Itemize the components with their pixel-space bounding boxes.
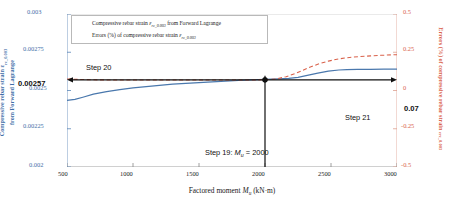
annotation-arrowhead-step-21 xyxy=(391,77,397,82)
x-axis-title-unit: (kN·m) xyxy=(253,186,275,195)
y-axis-left-title-line2: from Forward Lagrange xyxy=(8,60,15,125)
marker-mid-dot xyxy=(264,79,266,81)
y-axis-left-title-line1: Compressive rebar strain ε xyxy=(0,65,5,136)
y-tick-right-0.25: 0.25 xyxy=(403,45,414,52)
left-axis-readout-value: 0.00257 xyxy=(18,79,45,88)
y-tick-left-0.00275: 0.00275 xyxy=(23,45,44,52)
y-tick-right--0.25: -0.25 xyxy=(401,122,414,129)
x-axis-title-text: Factored moment xyxy=(189,186,241,195)
plot-area xyxy=(67,14,397,167)
y-axis-left-title-subscript: rc_0.003 xyxy=(3,49,8,65)
y-tick-right-0.5: 0.5 xyxy=(403,8,411,15)
series-line-compressive-strain xyxy=(67,69,397,100)
y-tick-left-0.003: 0.003 xyxy=(27,8,41,15)
plot-svg xyxy=(67,14,397,167)
y-tick-right-0: 0 xyxy=(403,84,406,91)
right-axis-readout-value: 0.07 xyxy=(404,104,419,113)
y-tick-right--0.5: -0.5 xyxy=(401,161,411,168)
annotation-arrowhead-step-20 xyxy=(67,77,73,82)
y-axis-right-title: Errors (%) of compressive rebar strain ε… xyxy=(433,18,449,168)
x-tick-2000: 2000 xyxy=(252,170,265,177)
y-tick-marks-left xyxy=(67,14,71,167)
y-tick-left-0.002: 0.002 xyxy=(29,161,43,168)
x-tick-1000: 1000 xyxy=(120,170,133,177)
x-axis-title: Factored moment Mu (kN·m) xyxy=(67,186,397,196)
x-tick-2500: 2500 xyxy=(318,170,331,177)
series-line-errors xyxy=(67,55,397,80)
y-axis-right-title-line1: Errors (%) of compressive rebar strain xyxy=(438,27,445,130)
y-axis-left-title: Compressive rebar strain εrc_0.003 from … xyxy=(0,26,14,156)
x-tick-marks xyxy=(67,163,397,167)
x-tick-500: 500 xyxy=(58,170,68,177)
x-tick-3000: 3000 xyxy=(384,170,397,177)
x-tick-1500: 1500 xyxy=(186,170,199,177)
y-tick-marks-right xyxy=(393,14,397,167)
figure-canvas: Compressive rebar strain εrc_0.003 from … xyxy=(0,0,449,204)
y-tick-left-0.00225: 0.00225 xyxy=(23,122,44,129)
y-axis-right-title-subscript: εrc_0.003 xyxy=(438,132,443,150)
x-axis-title-subscript: u xyxy=(249,190,252,196)
